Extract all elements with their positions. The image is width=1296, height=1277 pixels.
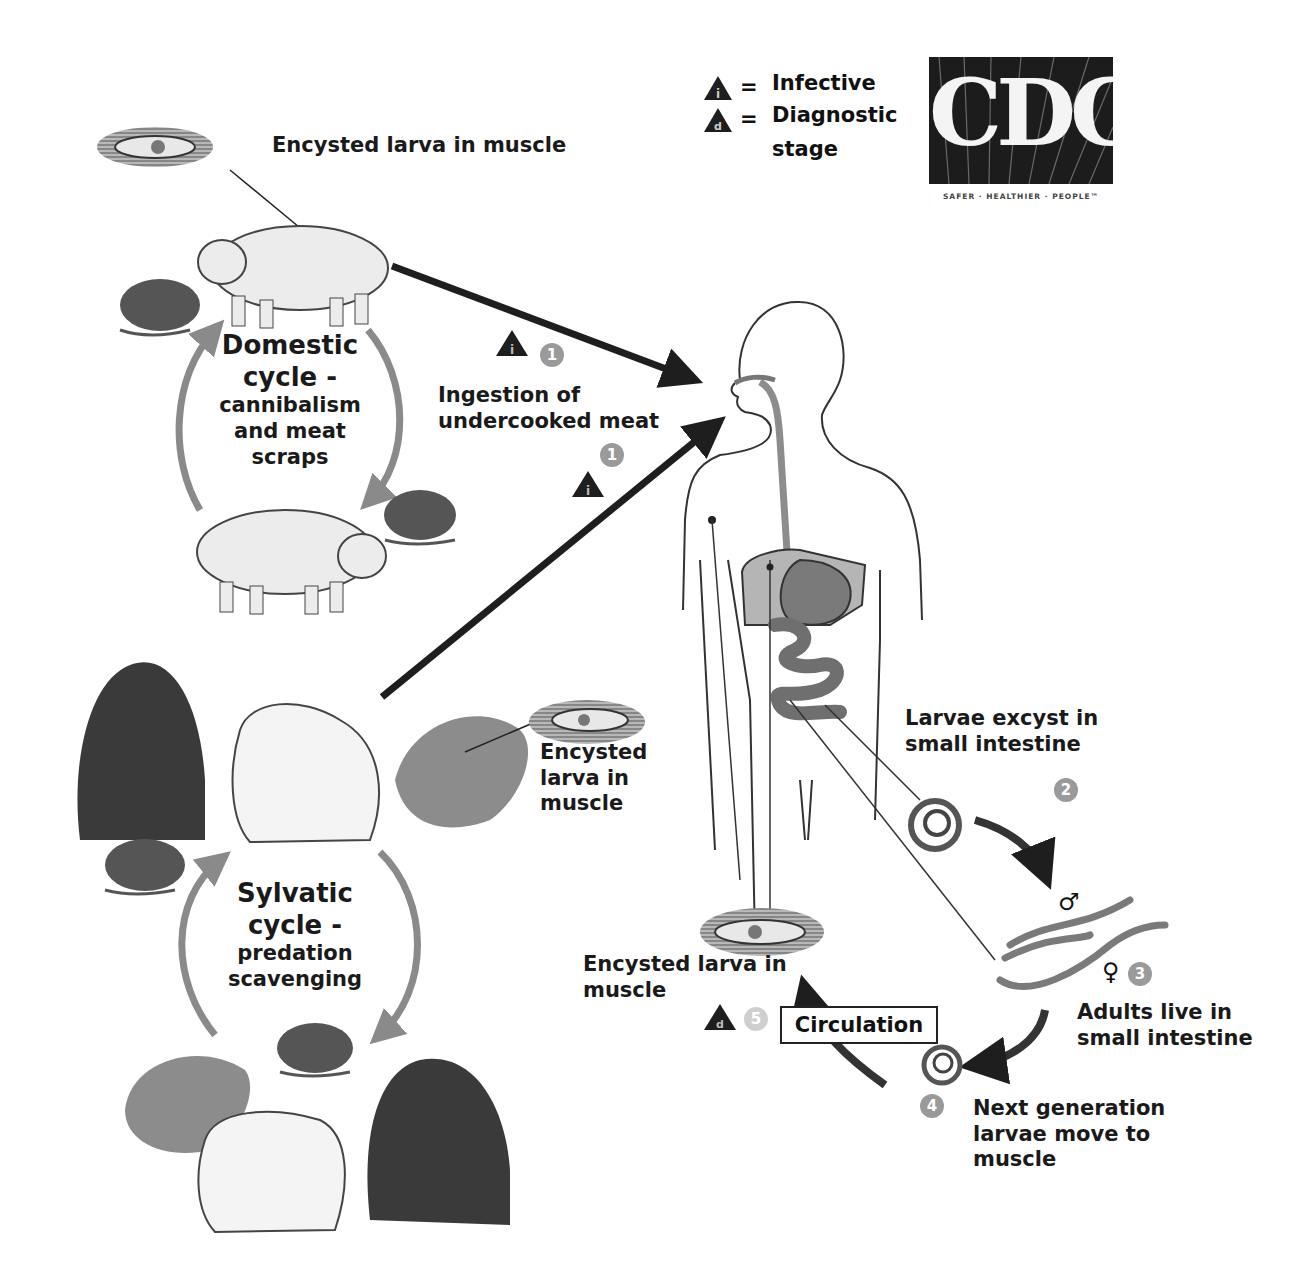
domestic-cycle-label: Domestic cycle - cannibalism and meat sc… [215, 330, 365, 470]
step-3-line-1: Adults live in [1077, 1000, 1253, 1026]
domestic-cycle-line-5: scraps [215, 445, 365, 471]
step-4-line-2: larvae move to [973, 1122, 1165, 1148]
step-2-badge: 2 [1054, 778, 1078, 802]
female-symbol: ♀ [1102, 958, 1120, 986]
svg-text:d: d [716, 1018, 724, 1031]
polar-bear-icon [233, 704, 379, 842]
legend-diagnostic-label-2: stage [772, 136, 838, 162]
pig-lower-icon [197, 510, 386, 614]
sylvatic-encysted-line-1: Encysted [540, 740, 647, 766]
domestic-cycle-line-2: cycle - [215, 362, 365, 394]
step-3-label: Adults live in small intestine [1077, 1000, 1253, 1051]
sylvatic-cycle-line-1: Sylvatic [220, 878, 370, 910]
diagnostic-triangle-step5-icon: d [704, 1004, 736, 1031]
sylvatic-encysted-line-2: larva in [540, 766, 647, 792]
domestic-cycle-arrow-up [179, 330, 215, 510]
infective-triangle-sylvatic-icon: i [572, 471, 604, 498]
rat-domestic-right-icon [384, 490, 456, 544]
step-3-badge: 3 [1128, 962, 1152, 986]
sylvatic-encysted-label: Encysted larva in muscle [540, 740, 647, 817]
step-4-line-1: Next generation [973, 1096, 1165, 1122]
sylvatic-cycle-line-4: scavenging [220, 967, 370, 993]
ingestion-line-2: undercooked meat [438, 409, 659, 435]
larva-next-gen-icon [924, 1047, 960, 1083]
larva-excyst-icon [911, 801, 959, 849]
step-4-badge: 4 [920, 1094, 944, 1118]
infective-triangle-domestic-icon: i [496, 330, 528, 357]
ingestion-line-1: Ingestion of [438, 383, 659, 409]
ingestion-label: Ingestion of undercooked meat [438, 383, 659, 434]
domestic-cycle-line-4: and meat [215, 419, 365, 445]
arrow-to-next-generation [975, 1010, 1045, 1065]
step-5-label: Encysted larva in muscle [583, 952, 787, 1003]
black-bear-right-icon [367, 1059, 510, 1225]
step-4-label: Next generation larvae move to muscle [973, 1096, 1165, 1173]
rat-sylvatic-bottom-icon [277, 1023, 353, 1076]
step-5-line-1: Encysted larva in [583, 952, 787, 978]
legend-infective-equals: = [740, 74, 758, 100]
svg-text:i: i [586, 484, 590, 498]
step-5-badge: 5 [744, 1007, 768, 1031]
legend-diagnostic-equals: = [740, 106, 758, 132]
circulation-box: Circulation [780, 1006, 938, 1044]
infective-triangle-legend-icon: i [704, 76, 732, 101]
pig-upper-icon [198, 226, 388, 328]
black-bear-left-icon [77, 662, 205, 840]
cdc-tagline: SAFER · HEALTHIER · PEOPLE™ [929, 192, 1113, 201]
domestic-cycle-arrow-down [368, 330, 400, 500]
svg-text:i: i [510, 343, 514, 357]
step-2-line-1: Larvae excyst in [905, 706, 1098, 732]
muscle-cyst-human [700, 908, 824, 956]
male-symbol: ♂ [1058, 888, 1080, 916]
step-1-badge-top: 1 [540, 343, 564, 367]
step-3-line-2: small intestine [1077, 1026, 1253, 1052]
step-5-line-2: muscle [583, 978, 787, 1004]
ingestion-arrow-sylvatic [382, 425, 715, 697]
cdc-logo: CDC [929, 57, 1113, 184]
step-2-label: Larvae excyst in small intestine [905, 706, 1098, 757]
step-4-line-3: muscle [973, 1147, 1165, 1173]
step-2-line-2: small intestine [905, 732, 1098, 758]
step-1-badge-bottom: 1 [600, 443, 624, 467]
domestic-encysted-label: Encysted larva in muscle [272, 133, 566, 159]
sylvatic-cycle-line-3: predation [220, 941, 370, 967]
arrow-to-adults [975, 820, 1045, 875]
boar-icon [395, 716, 540, 827]
rat-sylvatic-left-icon [105, 839, 185, 894]
svg-text:d: d [714, 120, 722, 133]
rat-upper-left-icon [120, 279, 200, 335]
diagnostic-triangle-legend-icon: d [704, 108, 732, 133]
domestic-cycle-line-1: Domestic [215, 330, 365, 362]
cdc-logo-text: CDC [929, 67, 1113, 159]
domestic-cycle-line-3: cannibalism [215, 393, 365, 419]
polar-bear-lower-icon [198, 1112, 344, 1232]
svg-text:i: i [716, 87, 720, 101]
legend-diagnostic-label: Diagnostic [772, 102, 897, 128]
sylvatic-cycle-arrow-down [380, 852, 418, 1035]
sylvatic-cycle-arrow-up [182, 860, 220, 1035]
sylvatic-cycle-label: Sylvatic cycle - predation scavenging [220, 878, 370, 993]
sylvatic-encysted-line-3: muscle [540, 791, 647, 817]
legend-infective-label: Infective [772, 70, 876, 96]
muscle-cyst-sylvatic [529, 700, 645, 744]
sylvatic-cycle-line-2: cycle - [220, 910, 370, 942]
